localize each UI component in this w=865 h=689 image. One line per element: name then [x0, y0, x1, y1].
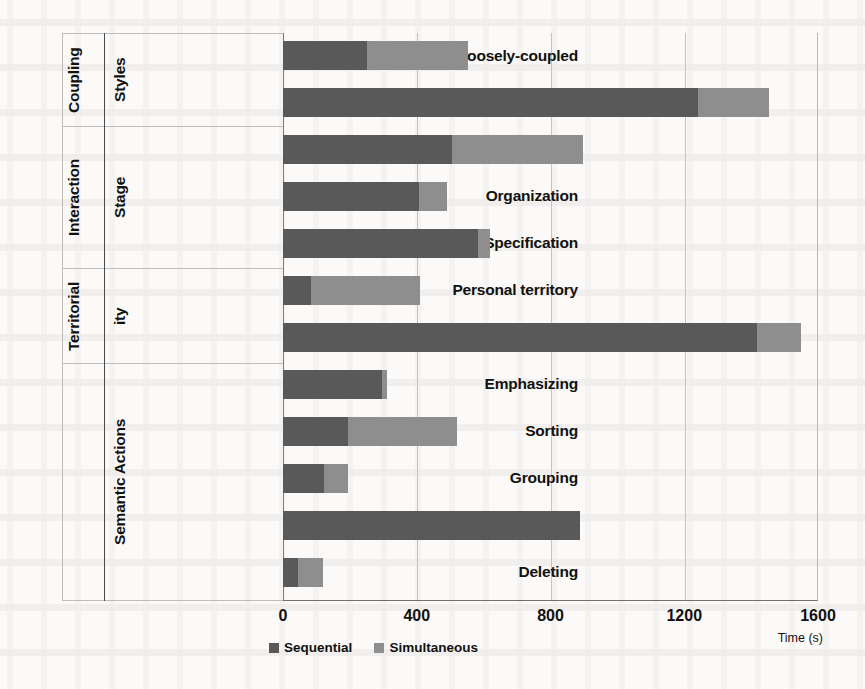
bar-segment-simultaneous — [382, 370, 387, 399]
bar-segment-simultaneous — [478, 229, 490, 258]
bar-segment-sequential — [283, 182, 419, 211]
legend-label-simultaneous: Simultaneous — [389, 640, 478, 655]
bar-row — [283, 41, 818, 70]
x-axis-tick-1600: 1600 — [800, 607, 836, 625]
group-label-coupling: Coupling — [66, 36, 82, 124]
group-divider-line-3 — [104, 268, 105, 363]
chart-legend: Sequential Simultaneous — [0, 640, 865, 655]
bar-row — [283, 370, 818, 399]
group-label-semantic-actions: Semantic Actions — [112, 367, 128, 597]
bar-segment-sequential — [283, 229, 478, 258]
bar-segment-simultaneous — [324, 464, 348, 493]
bar-segment-sequential — [283, 323, 757, 352]
stacked-bar-chart: Coupling Styles Interaction Stage Territ… — [0, 0, 865, 689]
group-separator-1 — [62, 126, 283, 127]
bar-segment-sequential — [283, 370, 382, 399]
group-label-styles: Styles — [112, 36, 128, 124]
x-axis-tick-400: 400 — [403, 607, 430, 625]
bar-segment-simultaneous — [698, 88, 768, 117]
bar-row — [283, 558, 818, 587]
bar-segment-simultaneous — [757, 323, 800, 352]
group-label-interaction: Interaction — [66, 130, 82, 264]
group-divider-line-2 — [104, 126, 105, 268]
legend-swatch-simultaneous — [374, 643, 384, 653]
bar-segment-simultaneous — [419, 182, 447, 211]
x-axis-tick-1200: 1200 — [666, 607, 702, 625]
bar-row — [283, 511, 818, 540]
bar-segment-simultaneous — [452, 135, 583, 164]
bar-row — [283, 182, 818, 211]
group-label-stage: Stage — [112, 130, 128, 264]
x-axis-tick-800: 800 — [537, 607, 564, 625]
bar-row — [283, 229, 818, 258]
legend-item-simultaneous: Simultaneous — [374, 640, 478, 655]
category-label-panel — [62, 33, 283, 601]
bar-segment-simultaneous — [348, 417, 457, 446]
bar-segment-sequential — [283, 276, 311, 305]
bar-row — [283, 276, 818, 305]
bar-segment-sequential — [283, 511, 580, 540]
group-label-territoriality-suffix: ity — [112, 272, 128, 360]
group-separator-2 — [62, 268, 283, 269]
legend-item-sequential: Sequential — [269, 640, 352, 655]
legend-swatch-sequential — [269, 643, 279, 653]
bar-segment-sequential — [283, 417, 348, 446]
bar-row — [283, 323, 818, 352]
bar-row — [283, 464, 818, 493]
bar-segment-sequential — [283, 558, 298, 587]
bar-row — [283, 417, 818, 446]
bar-segment-simultaneous — [298, 558, 323, 587]
legend-label-sequential: Sequential — [284, 640, 352, 655]
group-divider-line-4 — [104, 363, 105, 601]
group-divider-line-1 — [104, 33, 105, 126]
bar-segment-sequential — [283, 464, 324, 493]
x-axis-tick-0: 0 — [279, 607, 288, 625]
bar-row — [283, 135, 818, 164]
bar-row — [283, 88, 818, 117]
group-separator-3 — [62, 363, 283, 364]
group-label-territorial: Territorial — [66, 272, 82, 360]
bar-segment-sequential — [283, 41, 367, 70]
bar-segment-sequential — [283, 88, 698, 117]
bar-segment-simultaneous — [367, 41, 468, 70]
bar-segment-simultaneous — [311, 276, 420, 305]
bar-segment-sequential — [283, 135, 452, 164]
